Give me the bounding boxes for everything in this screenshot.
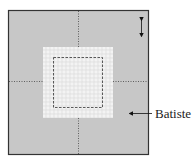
callout-label: Batiste — [155, 106, 191, 122]
fabric-diagram — [0, 0, 193, 163]
